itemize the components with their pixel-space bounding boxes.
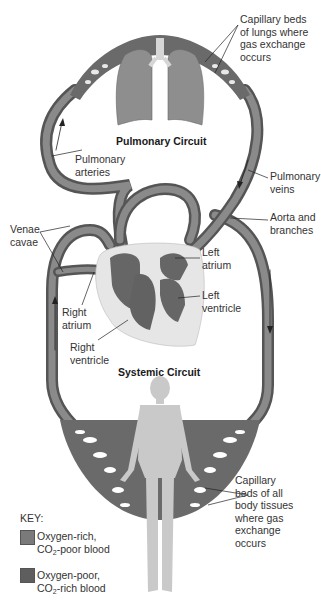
label-left-ventricle: Left ventricle	[202, 289, 241, 314]
label-capillary-lungs: Capillary beds of lungs where gas exchan…	[240, 13, 308, 63]
label-right-atrium: Right atrium	[62, 306, 91, 331]
label-capillary-body: Capillary beds of all body tissues where…	[235, 474, 293, 549]
systemic-circuit-title: Systemic Circuit	[118, 366, 200, 378]
key-label-oxygen-poor: Oxygen-poor, CO2-rich blood	[37, 569, 106, 595]
pulmonary-circuit-title: Pulmonary Circuit	[116, 135, 206, 147]
key-title: KEY:	[20, 512, 43, 524]
key-swatch-oxygen-rich	[20, 530, 35, 545]
key-label-oxygen-rich: Oxygen-rich, CO2-poor blood	[37, 530, 110, 556]
key-swatch-oxygen-poor	[20, 568, 35, 583]
label-right-ventricle: Right ventricle	[70, 341, 109, 366]
label-pulmonary-veins: Pulmonary veins	[270, 170, 320, 195]
label-aorta-branches: Aorta and branches	[270, 211, 316, 236]
label-venae-cavae: Venae cavae	[10, 223, 40, 248]
label-pulmonary-arteries: Pulmonary arteries	[75, 153, 125, 178]
label-left-atrium: Left atrium	[202, 246, 231, 271]
